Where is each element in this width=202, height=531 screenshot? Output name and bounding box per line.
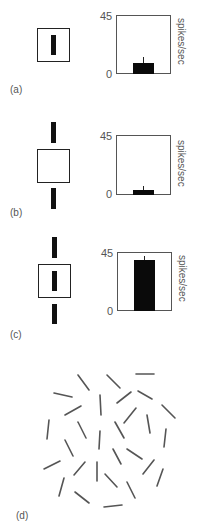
panel-d: (d) xyxy=(0,0,202,531)
panel-label: (d) xyxy=(16,511,28,521)
line-segment-field xyxy=(0,0,202,531)
